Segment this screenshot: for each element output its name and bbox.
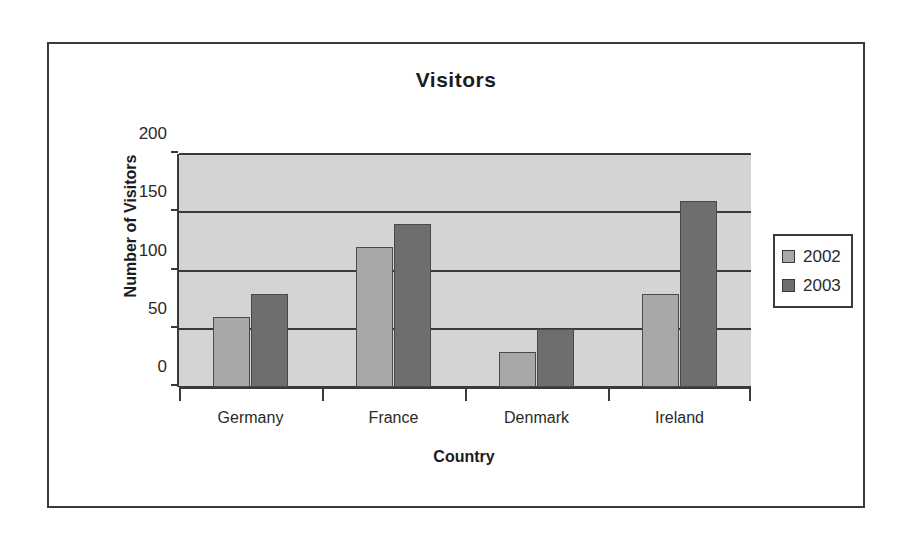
x-axis-title: Country: [177, 448, 751, 466]
y-axis-title: Number of Visitors: [122, 126, 140, 326]
legend-label: 2003: [803, 276, 841, 296]
y-tick-mark: [171, 384, 178, 386]
gridline: [179, 386, 751, 388]
x-tick-mark: [179, 388, 181, 401]
bar: [394, 224, 431, 387]
x-tick-mark: [608, 388, 610, 401]
x-category-label: France: [369, 409, 419, 427]
x-category-label: Germany: [218, 409, 284, 427]
chart-frame: Visitors Number of Visitors 050100150200…: [47, 42, 865, 508]
y-tick-label: 0: [158, 357, 167, 377]
y-tick-mark: [171, 151, 178, 153]
x-category-label: Denmark: [504, 409, 569, 427]
y-tick-label: 100: [139, 241, 167, 261]
y-tick-mark: [171, 209, 178, 211]
plot-area: 050100150200 GermanyFranceDenmarkIreland: [177, 154, 751, 387]
legend-item: 2003: [782, 271, 841, 300]
legend-swatch: [782, 250, 795, 263]
legend-label: 2002: [803, 247, 841, 267]
y-tick-mark: [171, 268, 178, 270]
bar: [213, 317, 250, 387]
bar: [356, 247, 393, 387]
bar: [499, 352, 536, 387]
x-tick-mark: [749, 388, 751, 401]
x-tick-mark: [322, 388, 324, 401]
x-category-label: Ireland: [655, 409, 704, 427]
chart-title: Visitors: [49, 68, 863, 92]
y-tick-label: 150: [139, 182, 167, 202]
y-tick-label: 50: [148, 299, 167, 319]
legend-swatch: [782, 279, 795, 292]
y-tick-mark: [171, 326, 178, 328]
gridline: [179, 211, 751, 213]
bar: [642, 294, 679, 387]
x-tick-mark: [465, 388, 467, 401]
bar: [537, 329, 574, 387]
legend-item: 2002: [782, 242, 841, 271]
bar: [251, 294, 288, 387]
y-tick-label: 200: [139, 124, 167, 144]
gridline: [179, 153, 751, 155]
bar: [680, 201, 717, 387]
chart-legend: 20022003: [773, 234, 853, 308]
gridline: [179, 270, 751, 272]
